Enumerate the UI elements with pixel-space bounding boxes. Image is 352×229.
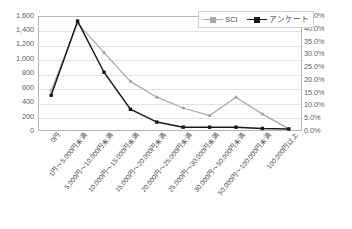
x-axis-label: 10,000円～15,000円未満	[87, 131, 142, 194]
x-axis-label: 25,000円～30,000円未満	[166, 131, 221, 194]
x-axis-label: 15,000円～20,000円未満	[113, 131, 168, 194]
data-point	[155, 96, 158, 99]
legend-item-ankeeto[interactable]: アンケート	[247, 15, 309, 24]
data-point	[234, 125, 237, 128]
x-axis-label: 0円	[49, 131, 62, 144]
legend-label-ankeeto: アンケート	[269, 15, 309, 24]
x-axis-label: 20,000円～25,000円未満	[140, 131, 195, 194]
data-point	[182, 125, 185, 128]
data-point	[103, 51, 106, 54]
data-point	[76, 19, 79, 22]
legend-label-sci: SCI	[225, 15, 238, 24]
legend-swatch-sci	[203, 15, 223, 24]
legend-item-sci[interactable]: SCI	[203, 15, 238, 24]
x-axis-labels: 0円1円～5,000円未満5,000円～10,000円未満10,000円～15,…	[0, 131, 352, 215]
figure-caption	[4, 218, 348, 228]
series-line-ankeeto	[51, 21, 289, 129]
chart-figure: 1,600 1,400 1,200 1,000 800 600 400 200 …	[0, 0, 352, 229]
data-point	[235, 96, 238, 99]
legend-swatch-ankeeto	[247, 15, 267, 24]
data-point	[129, 108, 132, 111]
data-point	[155, 120, 158, 123]
data-point	[50, 94, 53, 97]
data-point	[129, 80, 132, 83]
data-point	[102, 71, 105, 74]
data-point	[261, 113, 264, 116]
data-point	[208, 114, 211, 117]
data-point	[182, 107, 185, 110]
data-point	[208, 125, 211, 128]
chart-legend: SCI アンケート	[198, 11, 314, 28]
x-axis-label: 5,000円～10,000円未満	[63, 131, 115, 191]
data-point	[261, 127, 264, 130]
